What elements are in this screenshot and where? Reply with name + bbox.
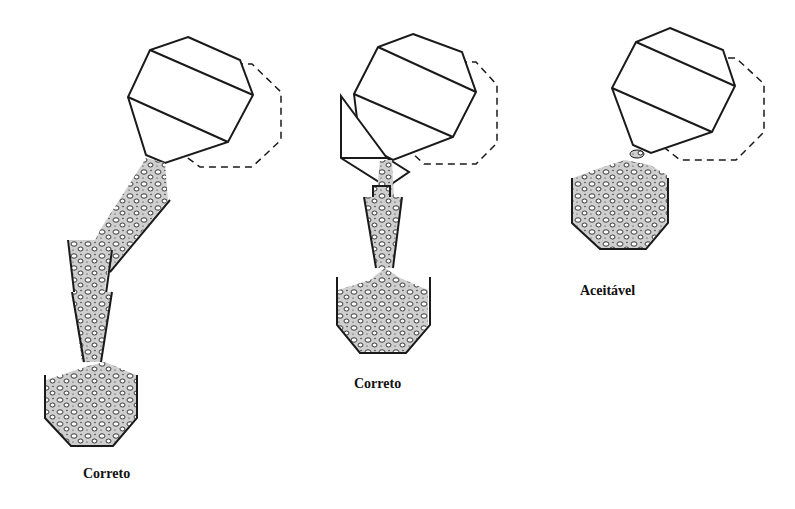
left-mixer-group [128, 37, 281, 167]
middle-mixer-group [341, 34, 497, 187]
right-mixer-group [612, 28, 764, 160]
right-mixer-drum [612, 28, 735, 153]
label-middle: Correto [354, 376, 401, 392]
left-mixer-drum [128, 37, 253, 163]
label-left: Correto [83, 466, 130, 482]
diagram-canvas [0, 0, 795, 509]
label-right: Aceitável [580, 283, 635, 299]
